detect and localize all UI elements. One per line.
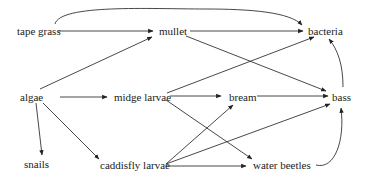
edge-waterbeetles-bass [316, 108, 342, 166]
node-algae: algae [20, 91, 43, 103]
edge-midge-bacteria [167, 37, 314, 93]
edge-caddis-bass [166, 104, 330, 164]
edge-algae-mullet [40, 37, 152, 89]
node-snails: snails [24, 158, 49, 170]
node-midge-larvae: midge larvae [114, 91, 171, 103]
node-bream: bream [229, 91, 256, 103]
node-caddisfly-larvae: caddisfly larvae [100, 159, 170, 171]
edge-tape-grass-bacteria [55, 8, 302, 25]
node-bacteria: bacteria [308, 25, 343, 37]
node-tape-grass: tape grass [17, 25, 61, 37]
edge-midge-waterbeetles [166, 100, 252, 159]
food-web-diagram: tape grass mullet bacteria algae midge l… [0, 0, 365, 178]
edge-caddis-bream [166, 105, 233, 164]
node-bass: bass [332, 91, 351, 103]
node-water-beetles: water beetles [253, 159, 311, 171]
node-mullet: mullet [159, 25, 187, 37]
edge-algae-caddisfly [43, 103, 99, 159]
edge-bass-bacteria [329, 39, 343, 87]
edge-algae-snails [36, 103, 42, 155]
edge-mullet-bass [186, 36, 326, 91]
